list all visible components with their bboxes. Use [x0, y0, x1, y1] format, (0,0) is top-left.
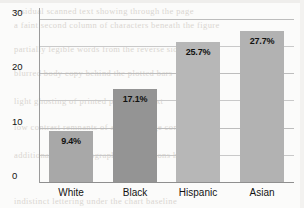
chart-figure: residual scanned text showing through th…: [0, 0, 304, 208]
bar-value-label: 27.7%: [240, 36, 284, 46]
gridline-major: [39, 19, 294, 20]
x-axis-category-label: Asian: [230, 187, 294, 198]
bar[interactable]: 17.1%: [113, 89, 157, 182]
bar-value-label: 17.1%: [113, 94, 157, 104]
y-axis-tick-label: 30: [12, 8, 23, 18]
bar-value-label: 25.7%: [176, 47, 220, 57]
y-axis-tick-label: 20: [12, 62, 23, 72]
scan-edge-top: [0, 0, 304, 3]
x-axis-category-label: White: [39, 187, 103, 198]
y-axis-tick-label: 10: [12, 117, 23, 127]
scan-edge-right: [300, 0, 304, 208]
x-axis-category-label: Hispanic: [166, 187, 230, 198]
bar[interactable]: 9.4%: [49, 131, 93, 182]
bar-value-label: 9.4%: [49, 136, 93, 146]
plot-area: 9.4%17.1%25.7%27.7%: [39, 8, 294, 182]
bar[interactable]: 27.7%: [240, 31, 284, 182]
x-axis-baseline: [39, 182, 294, 183]
y-axis-line: [39, 8, 40, 183]
y-axis-tick-label: 0: [12, 171, 17, 181]
bar[interactable]: 25.7%: [176, 42, 220, 182]
x-axis-category-label: Black: [103, 187, 167, 198]
